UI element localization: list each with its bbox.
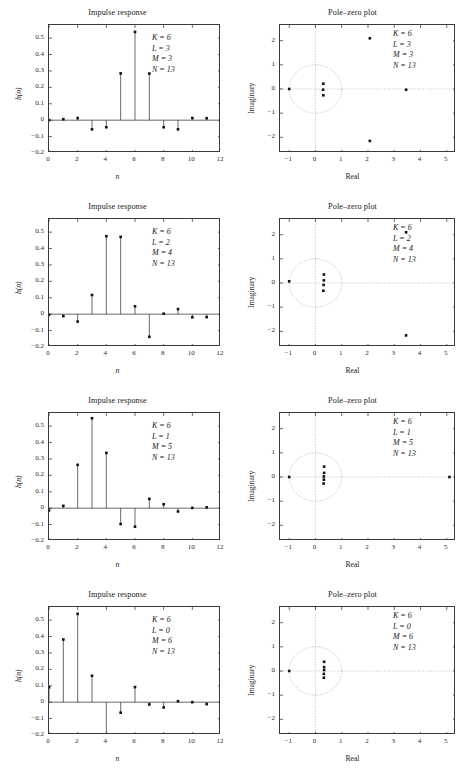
x-tick-label: 0	[300, 543, 328, 551]
panel-title: Pole–zero plot	[235, 202, 470, 211]
pole-zero-marker	[323, 666, 326, 669]
plot-area	[279, 606, 455, 734]
parameter-line: L = 0	[393, 622, 416, 633]
parameter-line: N = 13	[393, 255, 416, 266]
y-tick-label: 0.5	[6, 421, 44, 429]
panel-row: Impulse response0.50.40.30.20.10−0.1−0.2…	[0, 582, 470, 776]
x-axis-label: Real	[235, 754, 470, 763]
pole-zero-marker	[405, 334, 408, 337]
x-tick-label: 2	[63, 349, 91, 357]
plot-area	[279, 24, 455, 152]
parameter-line: M = 5	[152, 442, 175, 453]
parameter-line: K = 6	[393, 29, 416, 40]
x-tick-label: 12	[206, 349, 234, 357]
plot-area	[48, 218, 220, 346]
pole-zero-marker	[288, 280, 291, 283]
x-tick-label: 0	[34, 155, 62, 163]
stem-marker	[105, 452, 108, 455]
y-axis-label: h(n)	[14, 475, 23, 488]
impulse-response-panel: Impulse response0.50.40.30.20.10−0.1−0.2…	[0, 388, 235, 582]
y-tick-label: 0.2	[6, 82, 44, 90]
plot-area	[279, 412, 455, 540]
y-tick-label: 0.1	[6, 487, 44, 495]
parameter-annotation: K = 6L = 3M = 3N = 13	[393, 29, 416, 71]
parameter-line: K = 6	[152, 227, 175, 238]
parameter-line: M = 3	[393, 50, 416, 61]
stem-marker	[177, 308, 180, 311]
pole-zero-marker	[288, 670, 291, 673]
parameter-line: K = 6	[152, 33, 175, 44]
plot-area	[279, 218, 455, 346]
stem-marker	[119, 711, 122, 714]
parameter-line: L = 1	[152, 432, 175, 443]
y-tick-label: 0.4	[6, 50, 44, 58]
y-tick-label: −2	[243, 520, 275, 528]
y-tick-label: 0.2	[6, 470, 44, 478]
y-tick-label: 1	[243, 254, 275, 262]
y-tick-label: 0.3	[6, 260, 44, 268]
pole-zero-marker	[323, 472, 326, 475]
x-axis-label: n	[0, 366, 235, 375]
x-axis-label: n	[0, 172, 235, 181]
y-axis-label: h(n)	[14, 87, 23, 100]
parameter-line: L = 1	[393, 428, 416, 439]
x-tick-label: 4	[91, 349, 119, 357]
pole-zero-marker	[322, 82, 325, 85]
y-axis-label: Imaginary	[247, 277, 256, 308]
panel-row: Impulse response0.50.40.30.20.10−0.1−0.2…	[0, 194, 470, 388]
stem-marker	[191, 316, 194, 319]
stem-marker	[119, 236, 122, 239]
x-tick-label: 6	[120, 737, 148, 745]
pole-zero-marker	[323, 673, 326, 676]
panel-title: Impulse response	[0, 590, 235, 599]
y-tick-label: 0.2	[6, 276, 44, 284]
y-tick-label: 0	[6, 115, 44, 123]
pole-zero-marker	[405, 88, 408, 91]
plot-area	[48, 412, 220, 540]
y-tick-label: 0.2	[6, 664, 44, 672]
pole-zero-marker	[323, 279, 326, 282]
x-tick-label: −1	[274, 543, 302, 551]
x-tick-label: 4	[91, 737, 119, 745]
y-axis-label: Imaginary	[247, 83, 256, 114]
parameter-line: M = 6	[393, 632, 416, 643]
x-tick-label: 0	[300, 737, 328, 745]
pole-zero-marker	[322, 94, 325, 97]
pole-zero-marker	[288, 476, 291, 479]
x-axis-label: Real	[235, 366, 470, 375]
y-tick-label: −0.1	[6, 326, 44, 334]
y-tick-label: 2	[243, 424, 275, 432]
stem-marker	[62, 118, 65, 121]
x-tick-label: 8	[149, 737, 177, 745]
y-tick-label: 0.5	[6, 615, 44, 623]
x-tick-label: 2	[353, 543, 381, 551]
x-tick-label: 10	[177, 155, 205, 163]
y-tick-label: 1	[243, 448, 275, 456]
y-tick-label: 0.5	[6, 227, 44, 235]
pole-zero-marker	[323, 676, 326, 679]
pole-zero-marker	[322, 289, 325, 292]
pole-zero-marker	[369, 140, 372, 143]
parameter-annotation: K = 6L = 2M = 4N = 13	[393, 223, 416, 265]
stem-marker	[205, 506, 208, 509]
parameter-annotation: K = 6L = 0M = 6N = 13	[393, 611, 416, 653]
pole-zero-marker	[322, 88, 325, 91]
x-axis-label: n	[0, 560, 235, 569]
stem-marker	[105, 126, 108, 129]
stem-marker	[91, 128, 94, 131]
x-tick-label: 2	[353, 349, 381, 357]
parameter-line: N = 13	[393, 643, 416, 654]
y-tick-label: −2	[243, 132, 275, 140]
stem-marker	[191, 701, 194, 704]
panel-row: Impulse response0.50.40.30.20.10−0.1−0.2…	[0, 0, 470, 194]
y-tick-label: 0.3	[6, 66, 44, 74]
x-tick-label: 1	[327, 349, 355, 357]
y-axis-label: h(n)	[14, 669, 23, 682]
x-tick-label: 12	[206, 737, 234, 745]
stem-marker	[205, 117, 208, 120]
x-tick-label: 5	[432, 737, 460, 745]
parameter-annotation: K = 6L = 0M = 6N = 13	[152, 615, 175, 657]
x-tick-label: 4	[91, 543, 119, 551]
pole-zero-marker	[323, 661, 326, 664]
x-tick-label: 1	[327, 543, 355, 551]
